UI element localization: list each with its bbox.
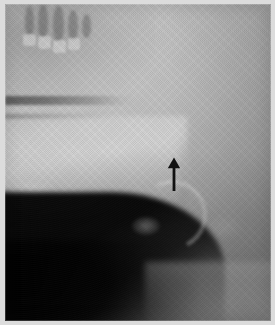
mandible-inferior-border xyxy=(11,190,129,220)
radiograph-figure xyxy=(0,0,275,325)
tooth-root xyxy=(82,14,91,38)
annotation-arrow-up-icon xyxy=(166,154,182,194)
tooth-crown xyxy=(53,40,66,53)
exposure-gradient-layer xyxy=(5,4,271,321)
tooth-crown xyxy=(23,34,36,46)
submandibular-air-shadow xyxy=(5,240,195,321)
halftone-screen-layer xyxy=(5,4,271,321)
symphysis-region xyxy=(7,180,63,224)
tooth-crown xyxy=(38,36,51,49)
hard-palate-band xyxy=(5,96,133,105)
film-vignette-layer xyxy=(5,4,271,321)
cervical-soft-tissue-region xyxy=(145,262,271,321)
cervical-column-shading xyxy=(5,4,271,321)
radiograph-image xyxy=(5,4,271,321)
oropharyngeal-air-shadow xyxy=(5,192,225,321)
tooth-root xyxy=(53,6,64,42)
cervical-vertebra-lower xyxy=(187,250,241,276)
cervical-vertebra-upper xyxy=(201,214,247,242)
hard-palate-secondary-band xyxy=(5,114,109,119)
mandible-body-region xyxy=(5,116,187,226)
tooth-root xyxy=(38,4,48,38)
hyoid-region xyxy=(131,216,161,236)
film-base-layer xyxy=(5,4,271,321)
tooth-root xyxy=(25,6,34,36)
tooth-root xyxy=(68,10,78,40)
film-grain-layer xyxy=(5,4,271,321)
tooth-crown xyxy=(68,38,80,50)
